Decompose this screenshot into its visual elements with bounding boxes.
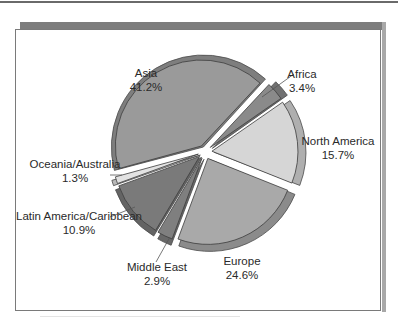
pie-chart: Africa3.4%North America15.7%Europe24.6%M…	[0, 0, 398, 331]
slice-label-name: Latin America/Caribbean	[16, 210, 142, 222]
slice-label-name: Asia	[135, 67, 158, 79]
slice-label-value: 3.4%	[289, 82, 315, 94]
slice-label-name: North America	[302, 135, 375, 147]
slice-label-value: 24.6%	[226, 269, 259, 281]
slice-label-name: Middle East	[127, 261, 188, 273]
slice-label-value: 15.7%	[322, 149, 355, 161]
slice-label-name: Africa	[287, 68, 317, 80]
slice-label-name: Europe	[223, 255, 260, 267]
slice-label-value: 1.3%	[62, 172, 88, 184]
slice-label-name: Oceania/Australia	[30, 158, 121, 170]
slice-label-value: 10.9%	[63, 224, 96, 236]
slice-label-value: 2.9%	[144, 275, 170, 287]
slice-label-value: 41.2%	[130, 81, 163, 93]
